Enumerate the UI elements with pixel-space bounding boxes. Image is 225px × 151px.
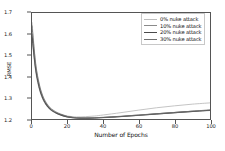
x-tick-mark xyxy=(103,120,104,124)
x-tick-mark xyxy=(31,120,32,124)
chart-figure: 1.21.31.41.51.61.7 020406080100 RMSE Num… xyxy=(0,0,225,151)
legend-item-label: 20% nuke attack xyxy=(160,29,201,35)
legend-line-swatch xyxy=(144,39,157,40)
series-line-2 xyxy=(32,34,210,118)
chart-legend: 0% nuke attack10% nuke attack20% nuke at… xyxy=(141,13,205,45)
legend-line-swatch xyxy=(144,25,157,26)
y-tick-label: 1.2 xyxy=(4,117,12,123)
y-tick-label: 1.6 xyxy=(4,31,12,37)
y-tick-mark xyxy=(27,98,31,99)
x-tick-mark xyxy=(175,120,176,124)
legend-item[interactable]: 10% nuke attack xyxy=(144,23,201,30)
x-tick-mark xyxy=(67,120,68,124)
x-tick-mark xyxy=(139,120,140,124)
y-tick-mark xyxy=(27,55,31,56)
legend-item-label: 10% nuke attack xyxy=(160,23,201,29)
legend-line-swatch xyxy=(144,19,157,20)
legend-item-label: 0% nuke attack xyxy=(160,16,198,22)
x-tick-mark xyxy=(211,120,212,124)
legend-item[interactable]: 30% nuke attack xyxy=(144,36,201,43)
y-tick-mark xyxy=(27,12,31,13)
y-axis-label: RMSE xyxy=(6,48,12,90)
y-tick-mark xyxy=(27,76,31,77)
y-tick-mark xyxy=(27,33,31,34)
legend-item[interactable]: 0% nuke attack xyxy=(144,16,201,23)
legend-line-swatch xyxy=(144,32,157,33)
x-axis-label: Number of Epochs xyxy=(31,131,211,138)
series-line-1 xyxy=(32,37,210,118)
legend-item[interactable]: 20% nuke attack xyxy=(144,29,201,36)
legend-item-label: 30% nuke attack xyxy=(160,36,201,42)
y-tick-label: 1.7 xyxy=(4,9,12,15)
y-tick-label: 1.3 xyxy=(4,95,12,101)
